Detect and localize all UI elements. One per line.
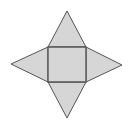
right-triangle-face — [86, 47, 122, 82]
pyramid-net-diagram — [0, 0, 130, 126]
left-triangle-face — [11, 47, 48, 82]
square-base-face — [48, 47, 86, 82]
bottom-triangle-face — [48, 82, 86, 118]
top-triangle-face — [48, 11, 86, 47]
